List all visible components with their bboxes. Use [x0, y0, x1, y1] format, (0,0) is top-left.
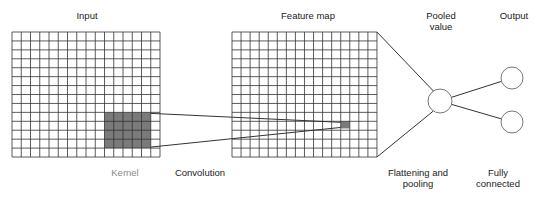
fully-connected-line1: Fully — [468, 167, 528, 178]
pooled-value-line1: Pooled — [419, 10, 463, 21]
output-node-1 — [501, 67, 523, 89]
flattening-line1: Flattening and — [378, 167, 458, 178]
pooled-value-label: Pooled value — [419, 10, 463, 32]
output-label: Output — [492, 10, 536, 21]
input-label: Input — [62, 10, 112, 21]
feature-map-grid — [232, 32, 377, 157]
fully-connected-label: Fully connected — [468, 167, 528, 189]
flattening-line2: pooling — [378, 178, 458, 189]
output-node-2 — [501, 111, 523, 133]
kernel-label: Kernel — [105, 167, 145, 178]
pooled-value-line2: value — [419, 21, 463, 32]
flattening-pooling-label: Flattening and pooling — [378, 167, 458, 189]
feature-map-label: Feature map — [268, 10, 348, 21]
fully-connected-line2: connected — [468, 178, 528, 189]
pooled-value-node — [428, 89, 452, 113]
neural-nodes — [428, 67, 523, 133]
convolution-label: Convolution — [168, 167, 232, 178]
